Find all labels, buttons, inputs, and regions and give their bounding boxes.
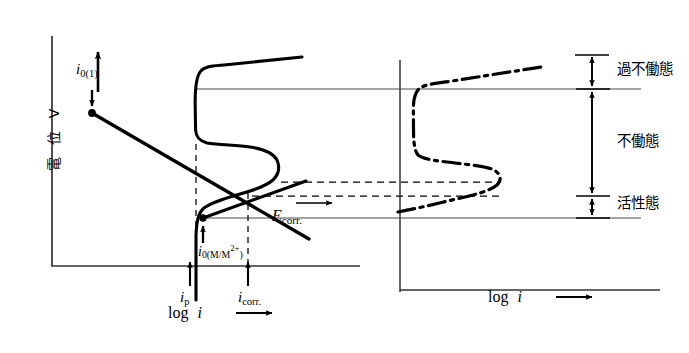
i0-metal-dot xyxy=(199,214,206,221)
region-bracket-group xyxy=(575,55,610,218)
left-x-axis-label: log i xyxy=(168,305,202,321)
right-x-axis-label: log i xyxy=(488,289,522,305)
ecorr-base: E xyxy=(272,207,282,224)
i0-redox-label: i0(1) xyxy=(76,62,98,79)
icorr-sub: corr. xyxy=(242,296,261,307)
region-label-active: 活性態 xyxy=(617,196,659,211)
region-label-transpassive: 過不働態 xyxy=(617,62,673,77)
i0-redox-paren: (1) xyxy=(85,68,97,79)
i0-metal-paren: (M/M xyxy=(207,249,230,260)
i0-metal-label: i0(M/M2+) xyxy=(198,244,243,260)
left-x-axis-i: i xyxy=(197,304,201,321)
right-x-axis-log: log xyxy=(488,288,508,305)
figure-canvas: 電 位 V i0(1) i0(M/M2+) ip icorr. Ecorr. l… xyxy=(0,0,689,353)
y-axis-label-text: 電 位 V xyxy=(46,105,62,171)
region-label-passive: 不働態 xyxy=(617,134,659,149)
ecorr-sub: corr. xyxy=(282,214,302,226)
right-axis-group xyxy=(400,60,660,292)
icorr-label: icorr. xyxy=(238,290,261,307)
ecorr-label: Ecorr. xyxy=(272,208,302,226)
left-x-axis-log: log xyxy=(168,304,188,321)
polarization-diagram-svg xyxy=(0,0,689,353)
i0-redox-dot xyxy=(88,109,96,117)
i0-metal-paren-close: ) xyxy=(239,249,242,260)
right-x-axis-i: i xyxy=(517,288,521,305)
y-axis-label: 電 位 V xyxy=(43,78,63,198)
